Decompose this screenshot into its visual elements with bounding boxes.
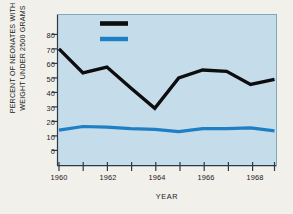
chart-plot-svg	[0, 0, 293, 214]
plot-background	[57, 14, 277, 166]
chart-figure: PERCENT OF NEONATES WITH WEIGHT UNDER 25…	[0, 0, 293, 214]
